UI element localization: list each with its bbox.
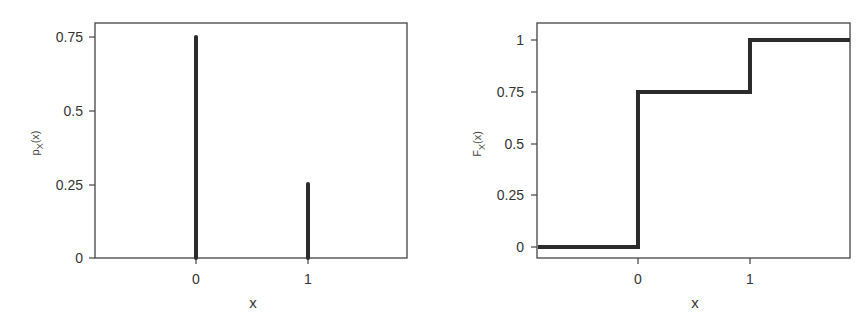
pmf-xtick-label: 1 <box>304 271 312 287</box>
cdf-ytick-label: 0.75 <box>497 84 524 100</box>
cdf-x-axis <box>638 258 750 264</box>
pmf-ytick-label: 0.25 <box>56 177 83 193</box>
pmf-chart: 0.75 0.5 0.25 0 0 1 x pX(x) <box>29 23 407 311</box>
pmf-x-axis-title: x <box>249 294 257 311</box>
pmf-y-axis <box>89 37 95 258</box>
pmf-ytick-label: 0 <box>75 250 83 266</box>
pmf-plot-frame <box>95 23 407 258</box>
figure: 0.75 0.5 0.25 0 0 1 x pX(x) <box>0 0 865 333</box>
cdf-ytick-label: 0.25 <box>497 187 524 203</box>
cdf-x-axis-title: x <box>691 294 699 311</box>
cdf-ytick-label: 0.5 <box>505 136 525 152</box>
pmf-y-axis-title: pX(x) <box>29 131 45 156</box>
cdf-chart: 1 0.75 0.5 0.25 0 0 1 x FX(x) <box>471 23 850 311</box>
cdf-xtick-label: 1 <box>746 271 754 287</box>
pmf-xtick-label: 0 <box>192 271 200 287</box>
cdf-ylabel-arg: (x) <box>471 131 483 144</box>
svg-text:FX(x): FX(x) <box>471 131 487 157</box>
cdf-ytick-label: 1 <box>516 32 524 48</box>
pmf-ylabel-arg: (x) <box>29 131 41 144</box>
cdf-step-line <box>538 40 850 247</box>
pmf-ytick-label: 0.5 <box>64 103 84 119</box>
pmf-ytick-label: 0.75 <box>56 29 83 45</box>
pmf-x-axis <box>196 258 308 264</box>
svg-text:pX(x): pX(x) <box>29 131 45 156</box>
cdf-y-axis-title: FX(x) <box>471 131 487 157</box>
cdf-xtick-label: 0 <box>634 271 642 287</box>
cdf-plot-frame <box>537 23 850 258</box>
cdf-y-axis <box>531 40 537 247</box>
cdf-ytick-label: 0 <box>516 239 524 255</box>
